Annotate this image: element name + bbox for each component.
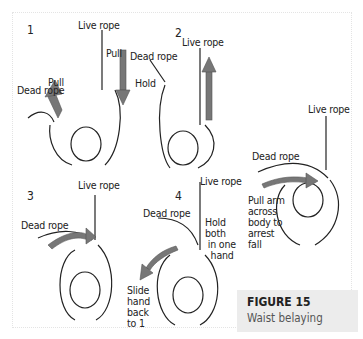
panel-5-live-rope-label: Live rope — [308, 104, 350, 115]
panel-4-hold-label: Hold both in one hand — [205, 217, 236, 261]
panel-3-dead-rope-label: Dead rope — [21, 220, 68, 231]
figure-title: FIGURE 15 — [247, 295, 311, 309]
panel-2-dead-rope-label: Dead rope — [130, 51, 177, 62]
panel-4-slide-label: Slide hand back to 1 — [127, 285, 150, 329]
panel-2-number: 2 — [175, 26, 182, 40]
panel-4-dead-rope-label: Dead rope — [143, 208, 190, 219]
panel-3-number: 3 — [27, 189, 34, 203]
panel-1-pull-right-label: Pull — [106, 48, 122, 59]
panel-5-arrest-label: Pull arm across body to arrest fall — [248, 195, 285, 250]
panel-4-live-rope-label: Live rope — [200, 176, 242, 187]
panel-1-dead-rope-label: Dead rope — [17, 85, 64, 96]
panel-1-live-rope-label: Live rope — [78, 20, 120, 31]
panel-4-number: 4 — [175, 189, 182, 203]
figure-subtitle: Waist belaying — [247, 311, 323, 325]
figure-caption: FIGURE 15 Waist belaying — [237, 290, 358, 332]
panel-1-number: 1 — [27, 23, 34, 37]
panel-2-live-rope-label: Live rope — [182, 37, 224, 48]
belaying-illustration — [0, 0, 363, 339]
panel-3-live-rope-label: Live rope — [78, 180, 120, 191]
panel-5-dead-rope-label: Dead rope — [252, 151, 299, 162]
panel-2-hold-label: Hold — [135, 78, 156, 89]
